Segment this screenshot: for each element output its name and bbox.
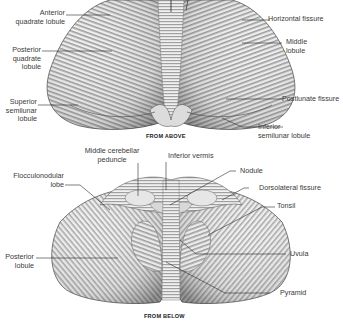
label-anterior-quadrate-lobule: Anterior quadrate lobule: [15, 9, 65, 26]
label-dorsolateral-fissure: Dorsolateral fissure: [259, 184, 321, 193]
label-posterior-quadrate-lobule: Posterior quadrate lobule: [12, 46, 41, 72]
label-postlunate-fissure: Postlunate fissure: [282, 95, 339, 104]
caption-from-above: FROM ABOVE: [146, 133, 186, 139]
label-middle-lobule: Middle lobule: [286, 38, 307, 55]
label-inferior-semilunar-lobule: Inferior semilunar lobule: [258, 123, 310, 140]
label-uvula: Uvula: [290, 250, 308, 259]
label-flocculonodular-lobe: Flocculonodular lobe: [13, 172, 64, 189]
label-posterior-lobule: Posterior lobule: [5, 253, 34, 270]
label-tonsil: Tonsil: [277, 202, 295, 211]
label-pyramid: Pyramid: [280, 289, 306, 298]
label-nodule: Nodule: [240, 167, 263, 176]
label-horizontal-fissure: Horizontal fissure: [268, 15, 324, 24]
label-middle-cerebellar-peduncle: Middle cerebellar peduncle: [66, 147, 158, 164]
label-superior-semilunar-lobule: Superior semilunar lobule: [6, 98, 37, 124]
cerebellum-from-above: [47, 0, 295, 129]
label-inferior-vermis: Inferior vermis: [168, 152, 214, 161]
cerebellum-from-below: [52, 177, 291, 304]
caption-from-below: FROM BELOW: [144, 313, 185, 319]
